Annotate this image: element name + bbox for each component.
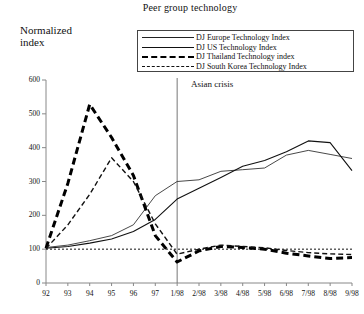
x-tick-label: 9/98: [339, 289, 364, 298]
y-tick-label: 500: [10, 109, 40, 118]
y-tick-marks: [42, 80, 46, 283]
y-tick-label: 0: [10, 278, 40, 287]
data-series-layer: [46, 104, 352, 262]
series-dj-us-technology-index: [46, 141, 352, 248]
series-dj-europe-technology-index: [46, 150, 352, 247]
y-tick-label: 200: [10, 210, 40, 219]
plot-area: [0, 0, 364, 314]
y-tick-label: 100: [10, 244, 40, 253]
chart-figure: Peer group technology Normalized index D…: [0, 0, 364, 314]
y-tick-label: 600: [10, 75, 40, 84]
series-dj-thailand-technology-index: [46, 104, 352, 262]
y-tick-label: 400: [10, 143, 40, 152]
y-tick-label: 300: [10, 177, 40, 186]
